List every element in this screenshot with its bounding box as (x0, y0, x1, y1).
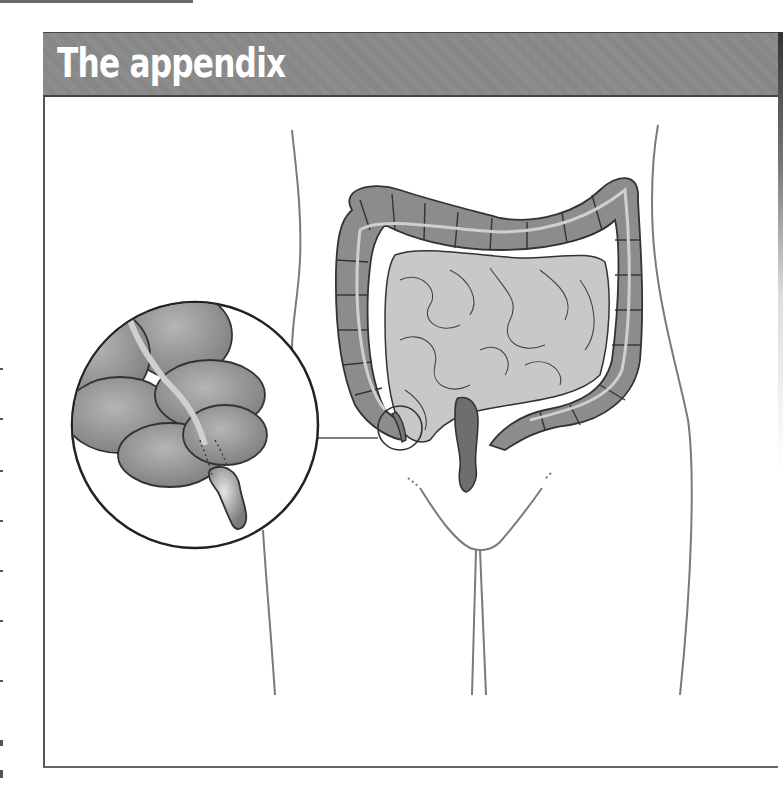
rectum (455, 397, 478, 492)
appendix-inset (50, 291, 318, 548)
appendix-illustration (0, 0, 783, 803)
